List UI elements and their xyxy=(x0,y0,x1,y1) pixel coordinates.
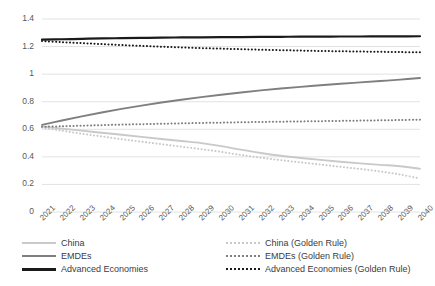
legend-column-dotted: China (Golden Rule)EMDEs (Golden Rule)Ad… xyxy=(200,236,426,282)
series-line xyxy=(42,120,420,127)
legend-item[interactable]: China (Golden Rule) xyxy=(226,236,426,249)
y-axis-tick-label: 0.4 xyxy=(4,151,34,161)
legend-label: China xyxy=(61,238,85,248)
y-axis-tick-label: 1.2 xyxy=(4,41,34,51)
y-axis-tick-label: 1.4 xyxy=(4,13,34,23)
legend-label: Advanced Economies (Golden Rule) xyxy=(265,264,411,274)
legend-label: Advanced Economies xyxy=(61,264,148,274)
y-axis-tick-label: 0.6 xyxy=(4,123,34,133)
legend-item[interactable]: China xyxy=(22,236,200,249)
legend-label: EMDEs xyxy=(61,251,92,261)
legend-item[interactable]: Advanced Economies xyxy=(22,262,200,275)
series-line xyxy=(42,128,420,179)
legend-column-solid: ChinaEMDEsAdvanced Economies xyxy=(0,236,200,282)
y-axis-tick-label: 0 xyxy=(4,206,34,216)
legend-item[interactable]: EMDEs xyxy=(22,249,200,262)
chart-legend: ChinaEMDEsAdvanced Economies China (Gold… xyxy=(0,236,426,282)
legend-label: EMDEs (Golden Rule) xyxy=(265,251,354,261)
y-axis-tick-label: 0.8 xyxy=(4,96,34,106)
legend-item[interactable]: Advanced Economies (Golden Rule) xyxy=(226,262,426,275)
series-line xyxy=(42,127,420,169)
series-line xyxy=(42,36,420,39)
legend-label: China (Golden Rule) xyxy=(265,238,347,248)
legend-item[interactable]: EMDEs (Golden Rule) xyxy=(226,249,426,262)
y-axis-tick-label: 1 xyxy=(4,68,34,78)
y-axis-tick-label: 0.2 xyxy=(4,178,34,188)
